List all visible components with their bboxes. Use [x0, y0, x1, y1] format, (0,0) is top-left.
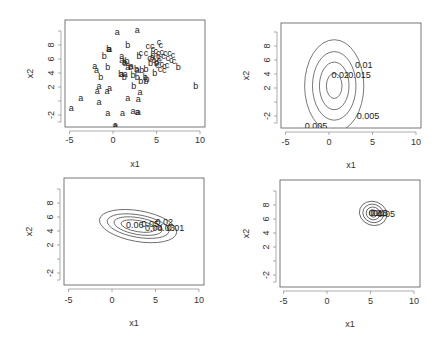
x-tick-label: 0 — [110, 135, 115, 145]
data-point: a — [113, 120, 118, 130]
x-axis: -50510x1 — [279, 291, 419, 329]
x-tick-label: 10 — [411, 137, 421, 147]
contour-label: 0.01 — [167, 223, 185, 233]
y-tick-label: 6 — [46, 56, 56, 61]
plot-area: 0.060.050.040.030.020.01 — [97, 204, 184, 248]
x-tick-label: 10 — [194, 295, 204, 305]
x-tick-label: 10 — [409, 296, 419, 306]
data-point: c — [172, 56, 177, 66]
data-point: c — [162, 65, 167, 75]
y-axis: -22468x2 — [241, 191, 276, 282]
y-axis: -22468x2 — [25, 31, 61, 122]
contour-label: 0.005 — [357, 111, 380, 121]
panel-top-right: -50510x1-22468x20.010.0150.020.0050.005 — [241, 23, 421, 170]
data-point: b — [193, 81, 198, 91]
x-tick-label: -5 — [64, 295, 72, 305]
plot-area: aaaaaaaaaaaaaaaaaaaaaaaaaaaaaaaabbbbbbbb… — [69, 25, 198, 132]
x-tick-label: 10 — [195, 135, 205, 145]
x-tick-label: 0 — [326, 137, 331, 147]
x-tick-label: -5 — [281, 137, 289, 147]
y-axis-title: x2 — [241, 71, 251, 81]
contour-line — [305, 40, 364, 132]
x-axis: -50510x1 — [281, 132, 421, 170]
panel-top-left: -50510x1-22468x2aaaaaaaaaaaaaaaaaaaaaaaa… — [25, 20, 205, 169]
y-tick-label: 2 — [45, 242, 55, 247]
data-point: b — [131, 81, 136, 91]
plot-area: 0.010.0150.020.0050.005 — [305, 40, 380, 132]
contour-label: 0.015 — [348, 70, 371, 80]
panel-bottom-left: -50510x1-22468x20.060.050.040.030.020.01 — [24, 178, 204, 328]
y-axis-title: x2 — [24, 227, 34, 237]
data-point: b — [102, 51, 107, 61]
y-axis-title: x2 — [25, 69, 35, 79]
data-point: a — [105, 108, 110, 118]
y-tick-label: 6 — [45, 214, 55, 219]
data-point: b — [98, 72, 103, 82]
x-tick-label: 5 — [368, 296, 373, 306]
x-tick-label: -5 — [65, 135, 73, 145]
y-tick-label: -2 — [262, 112, 272, 120]
data-point: b — [105, 62, 110, 72]
y-tick-label: 4 — [261, 230, 271, 235]
y-tick-label: 8 — [262, 43, 272, 48]
data-point: a — [97, 97, 102, 107]
data-point: b — [106, 44, 111, 54]
x-axis: -50510x1 — [65, 131, 205, 169]
y-tick-label: 8 — [45, 200, 55, 205]
data-point: a — [136, 94, 141, 104]
data-point: a — [136, 107, 141, 117]
data-point: a — [78, 93, 83, 103]
y-tick-label: 4 — [45, 228, 55, 233]
data-point: b — [122, 72, 127, 82]
x-axis-title: x1 — [345, 319, 355, 329]
y-tick-label: 4 — [46, 70, 56, 75]
panel-bottom-right: -50510x1-22468x20.20.150.10.05 — [241, 180, 420, 329]
x-tick-label: 5 — [154, 135, 159, 145]
x-tick-label: 0 — [324, 296, 329, 306]
data-point: c — [147, 53, 152, 63]
x-axis-title: x1 — [346, 160, 356, 170]
contour-label: 0.02 — [332, 70, 350, 80]
y-tick-label: 2 — [262, 85, 272, 90]
plot-frame — [280, 180, 420, 287]
contour-label: 0.05 — [377, 209, 395, 219]
y-tick-label: 2 — [261, 244, 271, 249]
data-point: b — [125, 40, 130, 50]
data-point: a — [125, 93, 130, 103]
y-axis-title: x2 — [241, 229, 251, 239]
data-point: b — [176, 62, 181, 72]
x-tick-label: 5 — [370, 137, 375, 147]
y-tick-label: 6 — [262, 57, 272, 62]
y-tick-label: -2 — [261, 271, 271, 279]
data-point: a — [135, 25, 140, 35]
contour-label: 0.005 — [305, 121, 328, 131]
x-axis-title: x1 — [130, 159, 140, 169]
chart-canvas: -50510x1-22468x2aaaaaaaaaaaaaaaaaaaaaaaa… — [0, 0, 442, 344]
contour-label: 0.01 — [355, 60, 373, 70]
data-point: a — [95, 86, 100, 96]
x-axis-title: x1 — [129, 318, 139, 328]
data-point: b — [144, 76, 149, 86]
y-axis: -22468x2 — [24, 189, 60, 280]
y-axis: -22468x2 — [241, 32, 277, 123]
plot-area: 0.20.150.10.05 — [356, 197, 395, 229]
y-tick-label: 4 — [262, 71, 272, 76]
data-point: a — [115, 27, 120, 37]
data-point: b — [124, 56, 129, 66]
x-tick-label: 0 — [109, 295, 114, 305]
y-tick-label: 6 — [261, 216, 271, 221]
data-point: a — [107, 83, 112, 93]
y-tick-label: -2 — [46, 111, 56, 119]
data-point: a — [120, 108, 125, 118]
y-tick-label: -2 — [45, 269, 55, 277]
x-axis: -50510x1 — [64, 289, 204, 328]
x-tick-label: -5 — [279, 296, 287, 306]
y-tick-label: 2 — [46, 84, 56, 89]
y-tick-label: 8 — [46, 42, 56, 47]
data-point: c — [157, 55, 162, 65]
data-point: a — [69, 103, 74, 113]
x-tick-label: 5 — [153, 295, 158, 305]
y-tick-label: 8 — [261, 202, 271, 207]
